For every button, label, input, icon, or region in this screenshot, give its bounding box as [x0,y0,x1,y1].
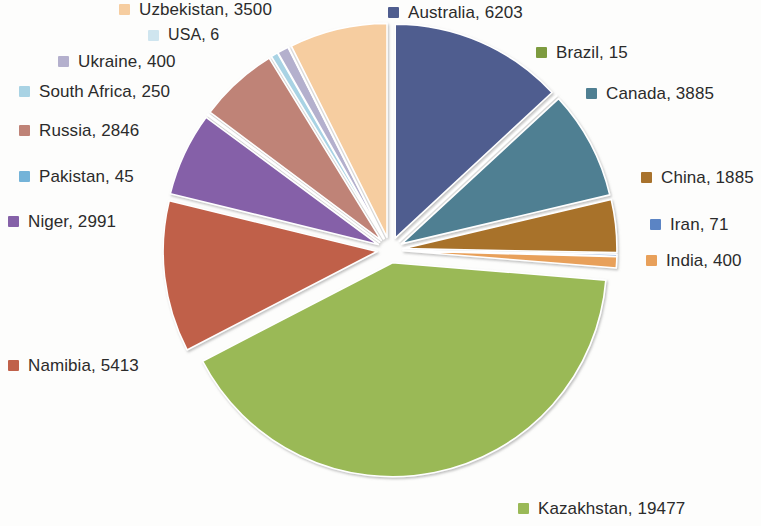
legend-item-india[interactable]: India, 400 [646,252,742,269]
legend-swatch-russia [19,125,30,136]
legend-swatch-india [646,255,657,266]
legend-label-canada: Canada, 3885 [606,85,714,102]
legend-swatch-usa [148,30,159,41]
legend-label-uzbekistan: Uzbekistan, 3500 [139,1,272,18]
legend-swatch-uzbekistan [119,4,130,15]
legend-swatch-niger [8,216,19,227]
legend-label-pakistan: Pakistan, 45 [39,168,134,185]
legend-swatch-canada [586,88,597,99]
legend-label-ukraine: Ukraine, 400 [78,53,176,70]
legend-swatch-brazil [536,47,547,58]
legend-swatch-china [641,172,652,183]
legend-item-ukraine[interactable]: Ukraine, 400 [58,53,176,70]
legend-swatch-kazakhstan [518,503,529,514]
legend-swatch-ukraine [58,56,69,67]
legend-item-namibia[interactable]: Namibia, 5413 [8,357,139,374]
legend-swatch-namibia [8,360,19,371]
legend-swatch-south-africa [19,86,30,97]
legend-label-brazil: Brazil, 15 [556,44,628,61]
legend-item-kazakhstan[interactable]: Kazakhstan, 19477 [518,500,685,517]
legend-label-russia: Russia, 2846 [39,122,139,139]
legend-swatch-australia [388,7,399,18]
legend-item-russia[interactable]: Russia, 2846 [19,122,139,139]
legend-item-iran[interactable]: Iran, 71 [650,216,728,233]
legend-item-niger[interactable]: Niger, 2991 [8,213,116,230]
legend-label-iran: Iran, 71 [670,216,728,233]
legend-label-namibia: Namibia, 5413 [28,357,139,374]
legend-item-usa[interactable]: USA, 6 [148,27,219,43]
legend-label-niger: Niger, 2991 [28,213,116,230]
legend-swatch-pakistan [19,171,30,182]
legend-item-canada[interactable]: Canada, 3885 [586,85,714,102]
legend-item-brazil[interactable]: Brazil, 15 [536,44,628,61]
legend-label-kazakhstan: Kazakhstan, 19477 [538,500,685,517]
legend-label-china: China, 1885 [661,169,754,186]
legend-label-usa: USA, 6 [168,27,219,43]
legend-item-south-africa[interactable]: South Africa, 250 [19,83,170,100]
chart-canvas: Uzbekistan, 3500 USA, 6 Ukraine, 400 Sou… [0,0,761,526]
legend-item-pakistan[interactable]: Pakistan, 45 [19,168,134,185]
legend-item-uzbekistan[interactable]: Uzbekistan, 3500 [119,1,272,18]
legend-item-china[interactable]: China, 1885 [641,169,754,186]
legend-item-australia[interactable]: Australia, 6203 [388,4,523,21]
legend-label-australia: Australia, 6203 [408,4,523,21]
legend-label-south-africa: South Africa, 250 [39,83,170,100]
legend-swatch-iran [650,219,661,230]
legend-label-india: India, 400 [666,252,742,269]
